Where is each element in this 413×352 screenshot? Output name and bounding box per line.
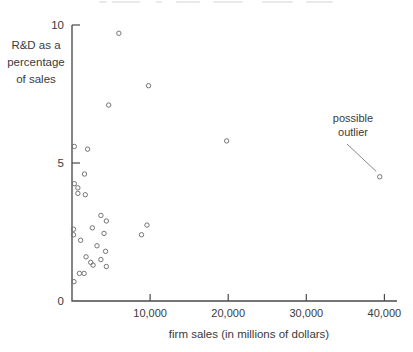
scatterplot-figure: R&D as a percentage of sales 051010,0002… [0,0,413,352]
outlier-annotation: possible outlier [322,112,384,139]
scatter-plot-canvas: 051010,00020,00030,00040,000 [0,0,413,352]
data-point [85,147,89,151]
x-tick-label: 40,000 [368,307,402,319]
data-point [72,144,76,148]
data-point [99,257,103,261]
x-tick-label: 10,000 [133,307,167,319]
data-point [107,103,111,107]
data-point [78,238,82,242]
data-point [378,175,382,179]
outlier-annotation-line1: possible [322,112,384,126]
data-point [77,271,81,275]
data-point [102,231,106,235]
x-tick-label: 30,000 [289,307,323,319]
data-point [95,244,99,248]
y-tick-label: 10 [51,19,64,31]
data-point [82,172,86,176]
data-point [224,139,228,143]
data-point [84,255,88,259]
data-point [76,191,80,195]
data-point [72,182,76,186]
annotation-leader-line [347,144,376,171]
data-point [104,264,108,268]
x-tick-label: 20,000 [211,307,245,319]
x-axis-title: firm sales (in millions of dollars) [103,328,395,340]
data-point [99,213,103,217]
y-tick-label: 5 [58,157,64,169]
data-point [104,219,108,223]
data-point [83,193,87,197]
data-point [145,223,149,227]
data-point [139,233,143,237]
data-point [103,249,107,253]
data-point [146,84,150,88]
data-point [90,226,94,230]
data-point [76,186,80,190]
y-tick-label: 0 [58,295,64,307]
data-point [117,31,121,35]
data-point [82,271,86,275]
outlier-annotation-line2: outlier [322,126,384,140]
axes [72,25,397,301]
